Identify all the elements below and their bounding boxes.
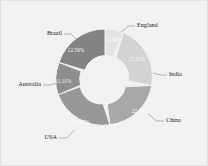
donut-hole [84, 56, 125, 97]
leader-line-india [153, 73, 167, 75]
category-label-england: England [137, 21, 159, 28]
leader-line-england [121, 26, 135, 32]
category-label-china: China [166, 116, 181, 123]
category-label-india: India [169, 70, 182, 77]
leader-line-china [148, 113, 164, 121]
slice-value-china: 22.46% [132, 108, 149, 114]
slice-value-brazil: 12.56% [68, 47, 85, 53]
donut-chart: 6.89% 17.21% 22.46% 22.77% 11.11% 12.56%… [1, 1, 208, 166]
donut-chart-card: 6.89% 17.21% 22.46% 22.77% 11.11% 12.56%… [0, 0, 208, 166]
slice-value-usa: 22.77% [73, 119, 90, 125]
category-label-australia: Australia [18, 80, 41, 87]
leader-line-usa [59, 130, 74, 138]
category-label-brazil: Brazil [47, 29, 62, 36]
slice-value-england: 6.89% [107, 37, 121, 43]
slice-value-india: 17.21% [129, 56, 146, 62]
category-label-usa: USA [45, 133, 58, 140]
